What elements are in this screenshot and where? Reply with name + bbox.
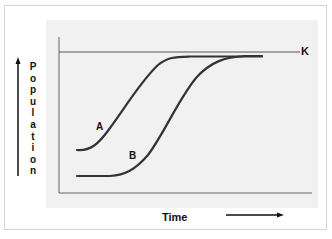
ylabel-letter: P xyxy=(30,61,37,73)
x-axis-label: Time xyxy=(162,211,187,223)
y-axis-label: P o p u l a t i o n xyxy=(27,61,39,177)
ylabel-letter: o xyxy=(30,73,36,85)
ylabel-letter: a xyxy=(30,119,36,131)
ylabel-letter: u xyxy=(30,96,36,108)
curve-b-label: B xyxy=(129,150,136,161)
carrying-capacity-label: K xyxy=(301,45,309,57)
y-arrowhead-icon xyxy=(16,57,21,64)
ylabel-letter: i xyxy=(32,142,35,154)
ylabel-letter: o xyxy=(30,154,36,166)
ylabel-letter: p xyxy=(30,84,36,96)
curve-a xyxy=(77,57,262,151)
curve-b xyxy=(77,56,262,176)
x-arrowhead-icon xyxy=(277,213,284,218)
ylabel-letter: l xyxy=(32,107,35,119)
ylabel-letter: n xyxy=(30,165,36,177)
curve-a-label: A xyxy=(96,121,103,132)
ylabel-letter: t xyxy=(31,131,34,143)
logistic-growth-chart xyxy=(0,0,332,239)
